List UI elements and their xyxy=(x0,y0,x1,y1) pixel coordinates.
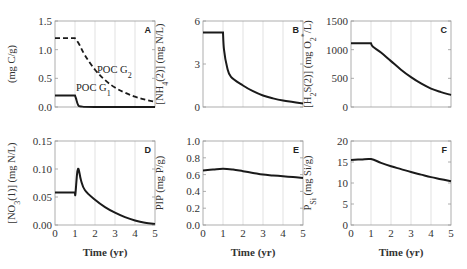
x-axis-label: Time (yr) xyxy=(379,246,424,259)
plot-frame xyxy=(203,141,303,225)
panel-letter: A xyxy=(145,25,152,35)
y-axis-label: [NH4(2)] (mg N/L) xyxy=(154,23,170,104)
y-tick-label: 5 xyxy=(343,198,349,210)
x-tick-label: 3 xyxy=(408,227,414,239)
x-tick-label: 4 xyxy=(428,227,434,239)
panel-letter: F xyxy=(442,145,448,155)
y-tick-label: 0 xyxy=(195,101,201,113)
x-tick-label: 5 xyxy=(300,227,306,239)
y-tick-label: 0.15 xyxy=(33,135,53,147)
y-axis-label: [NO3(1)] (mg N/L) xyxy=(6,142,22,223)
x-tick-label: 5 xyxy=(152,227,158,239)
panel-e: 0.00.20.40.60.81.0012345Time (yr)EPIP (m… xyxy=(154,135,306,259)
x-tick-label: 2 xyxy=(92,227,98,239)
panel-a: 0.00.51.01.5A(mg C/g)POC G2POC G1 xyxy=(6,15,155,113)
y-tick-label: 0.00 xyxy=(33,219,53,231)
x-tick-label: 3 xyxy=(112,227,118,239)
panel-letter: C xyxy=(441,25,448,35)
x-tick-label: 0 xyxy=(200,227,206,239)
y-axis-label: PIP (mg P/g) xyxy=(154,155,166,210)
x-axis-label: Time (yr) xyxy=(83,246,128,259)
x-tick-label: 0 xyxy=(52,227,58,239)
y-tick-label: 0.6 xyxy=(186,169,200,181)
y-tick-label: 6 xyxy=(195,15,201,27)
x-tick-label: 2 xyxy=(388,227,394,239)
y-tick-label: 10 xyxy=(337,177,349,189)
x-tick-label: 1 xyxy=(368,227,374,239)
panel-d: 0.000.050.100.15012345Time (yr)D[NO3(1)]… xyxy=(6,135,158,259)
y-tick-label: 1.0 xyxy=(38,44,52,56)
y-axis-label: PSi (mg Si/g) xyxy=(302,155,318,211)
y-tick-label: 20 xyxy=(337,135,349,147)
plot-frame xyxy=(351,141,451,225)
panel-b: 036B[NH4(2)] (mg N/L) xyxy=(154,15,303,113)
x-axis-label: Time (yr) xyxy=(231,246,276,259)
x-tick-label: 3 xyxy=(260,227,266,239)
figure-canvas: 0.00.51.01.5A(mg C/g)POC G2POC G1036B[NH… xyxy=(0,0,467,269)
x-tick-label: 4 xyxy=(280,227,286,239)
y-tick-label: 1500 xyxy=(326,15,349,27)
y-tick-label: 0.05 xyxy=(33,191,53,203)
y-axis-label: [H2S(2)] (mg O2*/L) xyxy=(300,20,318,108)
series-line-psi xyxy=(351,159,451,181)
y-tick-label: 0.4 xyxy=(186,185,200,197)
y-tick-label: 1.5 xyxy=(38,15,52,27)
panel-f: 05101520012345Time (yr)FPSi (mg Si/g) xyxy=(302,135,454,259)
panel-letter: B xyxy=(293,25,300,35)
panel-letter: E xyxy=(293,145,299,155)
y-tick-label: 1000 xyxy=(326,44,349,56)
x-tick-label: 1 xyxy=(72,227,78,239)
series-line-no3-1- xyxy=(55,169,155,224)
x-tick-label: 0 xyxy=(348,227,354,239)
series-line-pip xyxy=(203,169,303,178)
x-tick-label: 4 xyxy=(132,227,138,239)
y-tick-label: 1.0 xyxy=(186,135,200,147)
series-line-poc-g1 xyxy=(55,96,155,108)
panel-c: 050010001500C[H2S(2)] (mg O2*/L) xyxy=(300,15,452,113)
y-tick-label: 15 xyxy=(337,156,349,168)
y-axis-label: (mg C/g) xyxy=(6,44,18,83)
y-tick-label: 0.2 xyxy=(186,202,200,214)
y-tick-label: 3 xyxy=(195,58,201,70)
plot-frame xyxy=(203,21,303,107)
y-tick-label: 0.5 xyxy=(38,72,52,84)
series-line-nh4-2- xyxy=(203,32,303,103)
plot-frame xyxy=(351,21,451,107)
x-tick-label: 5 xyxy=(448,227,454,239)
y-tick-label: 500 xyxy=(332,72,349,84)
annotation-poc-g1: POC G1 xyxy=(76,82,111,98)
x-tick-label: 1 xyxy=(220,227,226,239)
series-line-h2s-2- xyxy=(351,43,451,95)
y-tick-label: 0 xyxy=(343,101,349,113)
x-tick-label: 2 xyxy=(240,227,246,239)
y-tick-label: 0.0 xyxy=(38,101,52,113)
y-tick-label: 0.0 xyxy=(186,219,200,231)
y-tick-label: 0.10 xyxy=(33,163,53,175)
plot-frame xyxy=(55,141,155,225)
y-tick-label: 0.8 xyxy=(186,152,200,164)
panel-letter: D xyxy=(145,145,152,155)
